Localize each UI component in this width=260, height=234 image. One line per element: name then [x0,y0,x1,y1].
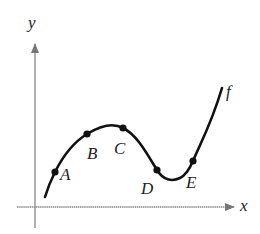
point-d-marker [153,166,160,173]
x-axis-label: x [239,196,248,215]
point-b-label: B [87,144,98,163]
point-d-label: D [140,179,154,198]
point-c-label: C [114,139,126,158]
point-e-label: E [185,173,197,192]
point-e-marker [189,157,196,164]
point-a-marker [51,168,58,175]
point-c-marker [119,124,126,131]
curve-label: f [226,82,233,101]
point-b-marker [83,130,90,137]
point-a-label: A [59,165,71,184]
y-axis-label: y [26,13,36,32]
function-graph: y x f A B C D E [0,0,260,234]
